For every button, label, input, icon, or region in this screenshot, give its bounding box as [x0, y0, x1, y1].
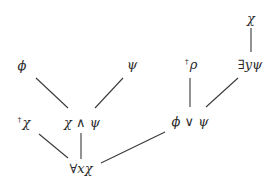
node-label: χ	[23, 115, 31, 130]
node-exists_y_psi: ∃yψ	[238, 58, 263, 71]
node-label: ρ	[190, 57, 198, 72]
node-forall_x_chi: ∀xχ	[69, 162, 92, 175]
edge-phi-to-chi_and_psi	[36, 78, 68, 108]
node-chi_dagger: †χ	[18, 116, 31, 129]
node-chi_and_psi: χ ∧ ψ	[64, 116, 100, 129]
edge-exists_y_psi-to-phi_or_psi	[206, 78, 238, 107]
node-label: ϕ ∨ ψ	[172, 114, 209, 129]
node-rho: †ρ	[185, 58, 198, 71]
edge-phi_or_psi-to-forall_x_chi	[101, 132, 165, 163]
node-label: ∃yψ	[238, 57, 263, 72]
node-phi_or_psi: ϕ ∨ ψ	[172, 115, 209, 128]
edge-psi-to-chi_and_psi	[95, 78, 123, 108]
node-phi: ϕ	[18, 59, 27, 72]
node-label: ψ	[127, 57, 137, 72]
node-label: χ ∧ ψ	[64, 115, 100, 130]
node-label: χ	[247, 11, 255, 26]
derivation-tree: χ∃yψϕψ†ρ†χχ ∧ ψϕ ∨ ψ∀xχ	[0, 0, 275, 190]
node-label: ϕ	[18, 58, 27, 73]
edge-chi_dagger-to-forall_x_chi	[39, 134, 68, 158]
node-psi: ψ	[127, 58, 137, 71]
node-label: ∀xχ	[69, 161, 92, 176]
node-chi_top: χ	[247, 12, 255, 25]
dagger-mark: †	[185, 57, 189, 66]
dagger-mark: †	[18, 115, 22, 124]
edges	[0, 0, 275, 190]
